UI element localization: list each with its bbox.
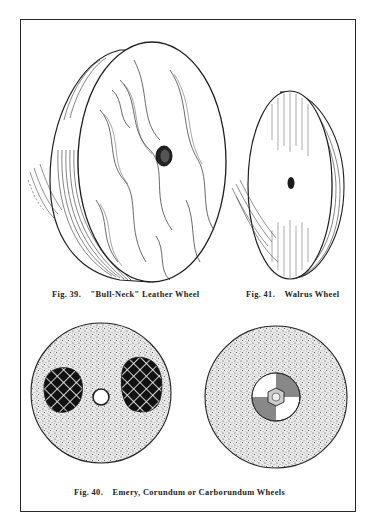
caption-fig39: Fig. 39. "Bull-Neck" Leather Wheel (52, 290, 199, 299)
plate-illustrations (0, 0, 372, 525)
fig41-walrus-wheel (232, 91, 344, 279)
caption-fig39-label: Fig. 39. (52, 290, 81, 299)
caption-fig40: Fig. 40. Emery, Corundum or Carborundum … (74, 488, 285, 497)
caption-fig41-label: Fig. 41. (246, 290, 275, 299)
fig40-wheel-crosshatch (31, 323, 171, 463)
caption-fig40-label: Fig. 40. (74, 488, 103, 497)
fig39-bull-neck-leather-wheel (28, 42, 226, 282)
caption-fig40-title: Emery, Corundum or Carborundum Wheels (113, 488, 285, 497)
fig40-wheel-flange-hub (205, 326, 347, 468)
caption-fig41-title: Walrus Wheel (284, 290, 339, 299)
caption-fig41: Fig. 41. Walrus Wheel (246, 290, 339, 299)
caption-fig39-title: "Bull-Neck" Leather Wheel (91, 290, 200, 299)
